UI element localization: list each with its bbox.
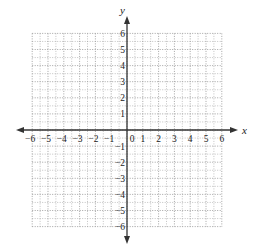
y-tick-label: −3 — [115, 174, 125, 184]
x-tick-label: 6 — [219, 134, 224, 144]
arrow-right-icon — [230, 127, 238, 133]
y-tick-label: 2 — [120, 93, 125, 103]
y-tick-label: 5 — [120, 45, 125, 55]
x-axis-label: x — [241, 124, 247, 136]
y-tick-label: 6 — [120, 29, 125, 39]
arrow-down-icon — [124, 236, 130, 244]
y-tick-label: 4 — [120, 61, 125, 71]
arrow-left-icon — [16, 127, 24, 133]
y-axis-label: y — [119, 4, 125, 16]
y-tick-label: −2 — [115, 158, 125, 168]
arrow-up-icon — [124, 16, 130, 24]
x-tick-label: −6 — [25, 134, 35, 144]
y-tick-label: −1 — [115, 142, 125, 152]
x-tick-label: 5 — [204, 134, 209, 144]
x-tick-label: −4 — [57, 134, 67, 144]
axes — [16, 16, 238, 244]
y-tick-label: −5 — [115, 206, 125, 216]
y-tick-label: −6 — [115, 222, 125, 232]
x-tick-label: 2 — [156, 134, 161, 144]
x-tick-label: −3 — [72, 134, 82, 144]
coordinate-plane: xy−6−5−4−3−2−10123456654321−1−2−3−4−5−6 — [0, 0, 255, 250]
y-tick-label: −4 — [115, 190, 125, 200]
x-tick-label: 4 — [188, 134, 193, 144]
x-tick-label: 0 — [130, 134, 135, 144]
y-tick-label: 1 — [120, 109, 125, 119]
x-tick-label: −5 — [41, 134, 51, 144]
x-tick-label: 1 — [140, 134, 145, 144]
tick-labels: xy−6−5−4−3−2−10123456654321−1−2−3−4−5−6 — [25, 4, 247, 232]
y-tick-label: 3 — [120, 77, 125, 87]
x-tick-label: −2 — [88, 134, 98, 144]
x-tick-label: 3 — [172, 134, 177, 144]
x-tick-label: −1 — [104, 134, 114, 144]
